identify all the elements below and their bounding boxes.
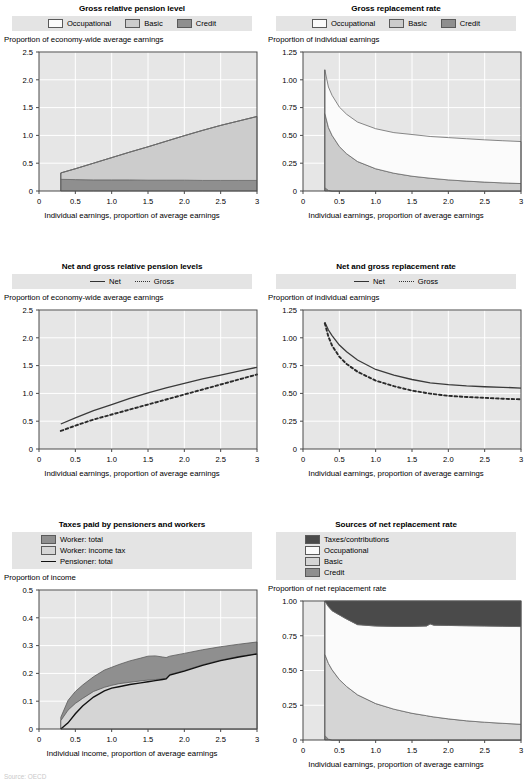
panel-title: Sources of net replacement rate (264, 516, 528, 530)
legend-item[interactable]: Basic (125, 19, 163, 28)
svg-text:0: 0 (29, 725, 33, 734)
legend-label: Net (373, 277, 385, 286)
legend-item[interactable]: Basic (305, 557, 423, 566)
svg-text:1.00: 1.00 (282, 597, 297, 606)
legend-item[interactable]: Pensioner: total (41, 557, 159, 566)
svg-text:0.5: 0.5 (334, 746, 345, 755)
legend-swatch-credit (177, 19, 192, 28)
figure-sheet: Gross relative pension level Occupationa… (0, 0, 528, 780)
plot-area: 00.250.500.751.001.2500.51.01.52.02.53 (264, 304, 528, 469)
legend-item[interactable]: Taxes/contributions (305, 535, 423, 544)
svg-text:0.25: 0.25 (282, 159, 297, 168)
svg-text:0: 0 (29, 445, 33, 454)
svg-text:0.5: 0.5 (70, 455, 81, 464)
legend-label: Gross (418, 277, 438, 286)
panel-title: Gross replacement rate (264, 0, 528, 14)
svg-text:0: 0 (293, 445, 297, 454)
svg-text:0: 0 (37, 455, 41, 464)
svg-text:2.0: 2.0 (443, 746, 454, 755)
svg-text:1.0: 1.0 (370, 455, 381, 464)
svg-text:1.0: 1.0 (22, 131, 33, 140)
svg-text:3: 3 (255, 197, 259, 206)
legend-swatch-occupational (305, 546, 320, 555)
chart-legend: Occupational Basic Credit (276, 16, 516, 31)
svg-text:2.5: 2.5 (479, 455, 490, 464)
chart-legend: Taxes/contributions Occupational Basic C… (276, 532, 516, 580)
x-axis-label: Individual income, proportion of average… (0, 749, 264, 758)
chart-svg: 00.10.20.30.40.500.51.01.52.02.53 (0, 584, 264, 749)
plot-area: 00.51.01.52.02.500.51.01.52.02.53 (0, 46, 264, 211)
svg-text:2.0: 2.0 (443, 197, 454, 206)
svg-text:1.5: 1.5 (407, 746, 418, 755)
svg-text:2.0: 2.0 (22, 334, 33, 343)
svg-text:0: 0 (29, 187, 33, 196)
svg-text:0.5: 0.5 (70, 197, 81, 206)
legend-line-pensioner-total (41, 561, 56, 562)
legend-label: Worker: total (60, 535, 103, 544)
svg-text:0.75: 0.75 (282, 103, 297, 112)
svg-text:3: 3 (519, 455, 523, 464)
legend-item[interactable]: Worker: total (41, 535, 159, 544)
legend-label: Occupational (331, 19, 375, 28)
legend-item[interactable]: Gross (135, 277, 174, 286)
chart-svg: 00.250.500.751.001.2500.51.01.52.02.53 (264, 304, 528, 469)
legend-swatch-worker-total (41, 535, 56, 544)
x-axis-label: Individual earnings, proportion of avera… (264, 211, 528, 220)
svg-text:1.5: 1.5 (143, 197, 154, 206)
svg-text:0: 0 (301, 197, 305, 206)
panel-title: Net and gross replacement rate (264, 258, 528, 272)
legend-swatch-basic (125, 19, 140, 28)
svg-text:0: 0 (301, 746, 305, 755)
svg-text:0.50: 0.50 (282, 666, 297, 675)
legend-item[interactable]: Occupational (312, 19, 375, 28)
chart-svg: 00.51.01.52.02.500.51.01.52.02.53 (0, 46, 264, 211)
svg-text:1.0: 1.0 (370, 746, 381, 755)
legend-label: Credit (196, 19, 216, 28)
x-axis-label: Individual earnings, proportion of avera… (264, 469, 528, 478)
svg-text:1.0: 1.0 (106, 735, 117, 744)
svg-text:1.5: 1.5 (143, 735, 154, 744)
svg-text:0: 0 (301, 455, 305, 464)
legend-swatch-occupational (48, 19, 63, 28)
legend-swatch-occupational (312, 19, 327, 28)
legend-line-net (90, 281, 105, 282)
legend-label: Taxes/contributions (324, 535, 389, 544)
legend-swatch-credit (441, 19, 456, 28)
legend-swatch-basic (305, 557, 320, 566)
svg-text:3: 3 (519, 197, 523, 206)
legend-item[interactable]: Occupational (305, 546, 423, 555)
svg-text:0.50: 0.50 (282, 131, 297, 140)
svg-text:0.75: 0.75 (282, 361, 297, 370)
panel-net-and-gross-relative-pension-levels: Net and gross relative pension levels Ne… (0, 258, 264, 518)
svg-text:1.00: 1.00 (282, 76, 297, 85)
legend-item[interactable]: Credit (441, 19, 480, 28)
legend-item[interactable]: Net (90, 277, 121, 286)
legend-item[interactable]: Credit (177, 19, 216, 28)
x-axis-label: Individual earnings, proportion of avera… (264, 760, 528, 769)
legend-item[interactable]: Gross (399, 277, 438, 286)
svg-text:0.5: 0.5 (22, 417, 33, 426)
svg-text:2.0: 2.0 (443, 455, 454, 464)
legend-item[interactable]: Worker: income tax (41, 546, 159, 555)
svg-text:1.0: 1.0 (370, 197, 381, 206)
svg-text:1.00: 1.00 (282, 334, 297, 343)
chart-legend: Occupational Basic Credit (12, 16, 252, 31)
legend-item[interactable]: Net (354, 277, 385, 286)
legend-item[interactable]: Occupational (48, 19, 111, 28)
svg-text:0.1: 0.1 (22, 697, 33, 706)
plot-area: 00.51.01.52.02.500.51.01.52.02.53 (0, 304, 264, 469)
svg-text:0.5: 0.5 (70, 735, 81, 744)
svg-text:1.0: 1.0 (106, 197, 117, 206)
panel-title: Taxes paid by pensioners and workers (0, 516, 264, 530)
svg-text:2.5: 2.5 (22, 48, 33, 57)
legend-item[interactable]: Basic (389, 19, 427, 28)
svg-text:3: 3 (255, 735, 259, 744)
legend-item[interactable]: Credit (305, 568, 423, 577)
panel-sources-of-net-replacement-rate: Sources of net replacement rate Taxes/co… (264, 516, 528, 780)
legend-label: Credit (324, 568, 344, 577)
legend-swatch-worker-income-tax (41, 546, 56, 555)
legend-label: Basic (324, 557, 343, 566)
svg-text:1.5: 1.5 (22, 361, 33, 370)
svg-text:0.75: 0.75 (282, 632, 297, 641)
svg-text:0: 0 (37, 197, 41, 206)
